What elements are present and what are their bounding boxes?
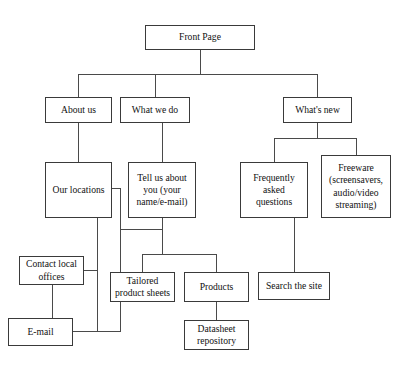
node-datasheet-repository[interactable]: Datasheet repository xyxy=(184,320,249,350)
node-tell-us-about-you[interactable]: Tell us about you (your name/e-mail) xyxy=(128,162,196,218)
node-tailored-sheets[interactable]: Tailored product sheets xyxy=(110,272,175,302)
node-label-email: E-mail xyxy=(11,326,70,338)
node-products[interactable]: Products xyxy=(184,272,249,302)
node-contact-local-offices[interactable]: Contact local offices xyxy=(19,256,84,285)
node-label-contact-local-offices: Contact local offices xyxy=(22,258,81,283)
node-search-the-site[interactable]: Search the site xyxy=(258,272,330,300)
node-email[interactable]: E-mail xyxy=(8,318,73,346)
node-label-frequently-asked: Frequently asked questions xyxy=(243,172,305,209)
node-label-about-us: About us xyxy=(48,104,109,116)
node-what-we-do[interactable]: What we do xyxy=(120,97,190,123)
node-freeware[interactable]: Freeware (screensavers, audio/video stre… xyxy=(321,155,391,218)
node-label-what-we-do: What we do xyxy=(123,104,187,116)
node-about-us[interactable]: About us xyxy=(45,97,112,123)
node-label-tailored-sheets: Tailored product sheets xyxy=(113,275,172,300)
node-label-our-locations: Our locations xyxy=(48,184,109,196)
node-label-tell-us-about-you: Tell us about you (your name/e-mail) xyxy=(131,172,193,209)
node-front-page[interactable]: Front Page xyxy=(145,25,255,50)
node-frequently-asked[interactable]: Frequently asked questions xyxy=(240,162,308,218)
connector-tell-us-about-you-to-tailored-sheets: M162,218 L162,254 M142,254 L216,254 M142… xyxy=(142,218,216,272)
node-label-search-the-site: Search the site xyxy=(261,280,327,292)
connector-our-locations-to-contact-local-offices: M97,218 L97,270 L84,270 xyxy=(84,218,97,270)
node-label-whats-new: What's new xyxy=(286,104,349,116)
node-our-locations[interactable]: Our locations xyxy=(45,162,112,218)
sitemap-diagram: M200,50 L200,74 M78,74 L317,74 M78,74 L7… xyxy=(0,0,410,373)
connector-front-page-to-about-us: M200,50 L200,74 M78,74 L317,74 M78,74 L7… xyxy=(78,50,317,97)
node-label-datasheet-repository: Datasheet repository xyxy=(187,323,246,348)
node-label-freeware: Freeware (screensavers, audio/video stre… xyxy=(324,162,388,211)
node-whats-new[interactable]: What's new xyxy=(283,97,352,123)
node-label-products: Products xyxy=(187,281,246,293)
node-label-front-page: Front Page xyxy=(148,31,252,43)
